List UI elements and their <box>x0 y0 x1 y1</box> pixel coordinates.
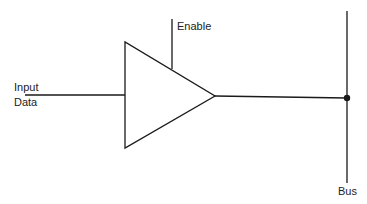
output-wire <box>215 96 347 98</box>
data-label: Data <box>14 96 37 108</box>
bus-label: Bus <box>338 185 357 197</box>
enable-label: Enable <box>177 20 211 32</box>
input-label: Input <box>14 81 38 93</box>
buffer-triangle <box>125 42 215 148</box>
junction-dot <box>344 95 350 101</box>
